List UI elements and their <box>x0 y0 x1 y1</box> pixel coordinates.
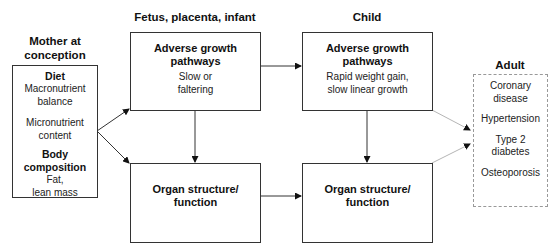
child-organ-box: Organ structure/ function <box>302 163 433 243</box>
child-growth-box: Adverse growth pathways Rapid weight gai… <box>302 32 433 111</box>
adult-outcomes-box: Coronary disease Hypertension Type 2 dia… <box>473 74 548 207</box>
diet-label: Diet <box>13 70 97 83</box>
fetus-growth-title-line1: Adverse growth <box>131 42 260 55</box>
fetus-organ-line1: Organ structure/ <box>131 183 260 196</box>
outcome-osteoporosis: Osteoporosis <box>474 167 547 180</box>
fetus-organ-box: Organ structure/ function <box>130 163 261 243</box>
arrow-child-organ-to-adult <box>432 144 470 163</box>
diet-item-macronutrient-line2: balance <box>13 96 97 109</box>
mother-box: Diet Macronutrient balance Micronutrient… <box>12 65 98 198</box>
fetus-organ-line2: function <box>131 196 260 209</box>
outcome-coronary-line1: Coronary <box>474 80 547 93</box>
child-growth-title-line2: pathways <box>303 55 432 68</box>
fetus-growth-desc-line1: Slow or <box>131 71 260 84</box>
child-growth-desc-line2: slow linear growth <box>303 84 432 97</box>
child-organ-line2: function <box>303 196 432 209</box>
fetus-growth-box: Adverse growth pathways Slow or falterin… <box>130 32 261 111</box>
arrow-mother-to-fetus-growth <box>97 109 129 131</box>
heading-fetus: Fetus, placenta, infant <box>120 10 270 24</box>
fetus-growth-title-line2: pathways <box>131 55 260 68</box>
child-growth-desc-line1: Rapid weight gain, <box>303 71 432 84</box>
arrow-mother-to-fetus-organ <box>97 131 129 163</box>
diet-item-macronutrient-line1: Macronutrient <box>13 83 97 96</box>
child-organ-line1: Organ structure/ <box>303 183 432 196</box>
diet-item-micronutrient-line2: content <box>13 130 97 143</box>
body-composition-line2: lean mass <box>13 187 97 200</box>
outcome-hypertension: Hypertension <box>474 113 547 126</box>
heading-mother-line2: conception <box>24 49 85 61</box>
outcome-diabetes-line1: Type 2 <box>474 134 547 147</box>
fetus-growth-desc-line2: faltering <box>131 84 260 97</box>
diet-item-micronutrient-line1: Micronutrient <box>13 117 97 130</box>
heading-mother-line1: Mother at <box>29 35 81 47</box>
body-composition-line1: Fat, <box>13 174 97 187</box>
body-composition-label: Body composition <box>13 148 97 174</box>
outcome-diabetes-line2: diabetes <box>474 146 547 159</box>
arrow-child-growth-to-adult <box>432 110 470 130</box>
outcome-coronary-line2: disease <box>474 93 547 106</box>
heading-child: Child <box>302 10 432 24</box>
heading-adult: Adult <box>473 58 547 72</box>
child-growth-title-line1: Adverse growth <box>303 42 432 55</box>
heading-mother: Mother at conception <box>2 34 108 62</box>
